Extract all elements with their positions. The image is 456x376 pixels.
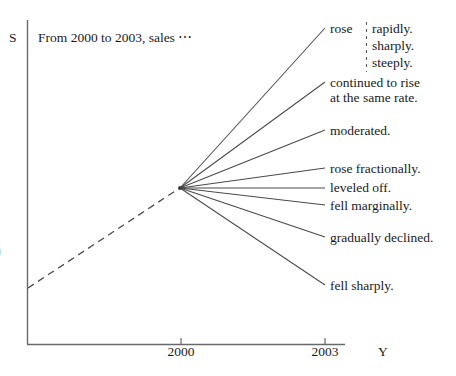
x-axis-label-year: Y	[378, 344, 388, 360]
branch-label-leveled-off: leveled off.	[330, 180, 391, 196]
branch-label-gradually-declined: gradually declined.	[330, 230, 433, 246]
branch-label-rose: rose	[330, 21, 353, 37]
branch-variant-rapidly: rapidly.	[372, 21, 413, 37]
x-tick-label-2003: 2003	[299, 344, 351, 360]
y-axis-label-sales: S	[9, 30, 17, 46]
prompt-sentence: From 2000 to 2003, sales ⋯	[38, 30, 192, 46]
branch-label-fell-marginally: fell marginally.	[330, 198, 412, 214]
branch-variant-steeply: steeply.	[372, 55, 413, 71]
ray-moderated	[180, 130, 325, 188]
ray-continued-to-rise	[180, 82, 325, 188]
history-dashed-trend-line	[28, 189, 179, 289]
branch-label-rose-fractionally: rose fractionally.	[330, 161, 421, 177]
sales-trend-fan-diagram: ) S Y 2000 2003 From 2000 to 2003, sales…	[0, 0, 456, 376]
branch-variant-sharply: sharply.	[372, 38, 414, 54]
x-tick-label-2000: 2000	[155, 344, 207, 360]
branch-label-moderated: moderated.	[330, 123, 390, 139]
branch-point-node	[178, 186, 182, 190]
clipped-edge-glyph: )	[0, 238, 1, 263]
ray-rose-fractionally	[180, 168, 325, 188]
branch-label-at-the-same-rate: at the same rate.	[330, 90, 418, 106]
branch-label-continued-to-rise: continued to rise	[330, 75, 420, 91]
ray-gradually-declined	[180, 188, 325, 237]
ray-rose-rapidly	[180, 28, 325, 188]
branch-label-fell-sharply: fell sharply.	[330, 278, 394, 294]
